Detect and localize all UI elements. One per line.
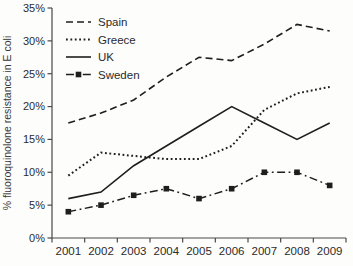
legend-item-spain: Spain xyxy=(66,16,127,28)
legend-item-greece: Greece xyxy=(66,34,136,46)
marker-square-sweden xyxy=(98,202,104,208)
axis-lines xyxy=(52,8,346,238)
series-line-greece xyxy=(68,87,329,176)
legend-item-uk: UK xyxy=(66,51,114,63)
series-line-sweden xyxy=(68,172,329,211)
y-tick-label: 5% xyxy=(29,199,45,211)
y-tick-label: 30% xyxy=(23,35,45,47)
marker-square-sweden xyxy=(262,169,268,175)
x-tick-label: 2004 xyxy=(154,245,180,257)
x-tick-label: 2001 xyxy=(56,245,82,257)
marker-square-sweden xyxy=(66,209,72,215)
x-tick-label: 2008 xyxy=(284,245,310,257)
y-tick-label: 35% xyxy=(23,2,45,14)
legend-label-sweden: Sweden xyxy=(98,69,140,81)
marker-square-sweden xyxy=(131,192,137,198)
legend-item-sweden: Sweden xyxy=(66,69,140,81)
legend-label-uk: UK xyxy=(98,51,114,63)
marker-square-sweden xyxy=(327,183,333,189)
legend-label-spain: Spain xyxy=(98,16,127,28)
y-tick-label: 10% xyxy=(23,166,45,178)
y-axis-label: % fluoroquinolone resistance in E coli xyxy=(1,36,13,211)
legend: SpainGreeceUKSweden xyxy=(66,16,140,81)
line-chart: % fluoroquinolone resistance in E coli 0… xyxy=(0,0,353,266)
x-tick-label: 2007 xyxy=(252,245,278,257)
marker-square-sweden xyxy=(229,186,235,192)
y-tick-label: 15% xyxy=(23,133,45,145)
figure: % fluoroquinolone resistance in E coli 0… xyxy=(0,0,353,266)
x-tick-label: 2009 xyxy=(317,245,343,257)
x-tick-label: 2002 xyxy=(88,245,114,257)
y-tick-label: 20% xyxy=(23,100,45,112)
marker-square-sweden xyxy=(294,169,300,175)
y-tick-label: 0% xyxy=(29,232,45,244)
x-tick-label: 2003 xyxy=(121,245,147,257)
y-tick-label: 25% xyxy=(23,68,45,80)
marker-square-sweden xyxy=(164,186,170,192)
x-tick-label: 2005 xyxy=(186,245,212,257)
legend-marker-sweden xyxy=(76,72,82,78)
series-line-uk xyxy=(68,107,329,199)
legend-label-greece: Greece xyxy=(98,34,136,46)
marker-square-sweden xyxy=(196,196,202,202)
x-tick-label: 2006 xyxy=(219,245,245,257)
